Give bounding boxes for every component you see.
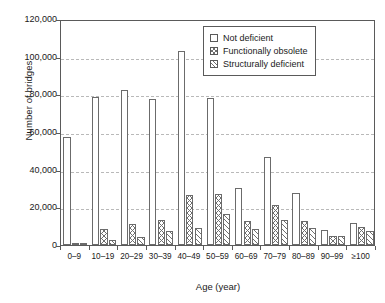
x-axis-tick-label: 50–59 <box>206 252 229 261</box>
y-axis-tick-label: 100,000 <box>0 52 57 62</box>
bar-sd <box>195 228 202 245</box>
y-axis-tick-mark <box>56 20 60 21</box>
x-axis-tick-label: ≥100 <box>352 252 370 261</box>
x-axis-tick-label: 60–69 <box>235 252 258 261</box>
x-axis-title: Age (year) <box>60 281 376 292</box>
bar-nd <box>207 98 214 245</box>
bar-fo <box>272 205 279 245</box>
y-axis-tick-label: 60,000 <box>0 127 57 137</box>
x-axis-tick-label: 80–89 <box>292 252 315 261</box>
x-axis-tick-mark <box>60 246 61 250</box>
x-axis-tick-label: 90–99 <box>321 252 344 261</box>
bar-nd <box>292 193 299 245</box>
y-axis-tick-label: 120,000 <box>0 14 57 24</box>
bar-sd <box>338 236 345 245</box>
x-axis-tick-mark <box>318 246 319 250</box>
legend-item: Functionally obsolete <box>210 44 308 57</box>
legend-swatch-functionally-obsolete <box>210 47 218 55</box>
y-axis-tick-label: 0 <box>0 240 57 250</box>
x-axis-tick-label: 70–79 <box>263 252 286 261</box>
y-axis-tick-mark <box>56 208 60 209</box>
bar-chart-figure: Number of bridges Age (year) Not deficie… <box>0 0 385 303</box>
bar-nd <box>321 230 328 245</box>
y-axis-tick-label: 40,000 <box>0 165 57 175</box>
bar-nd <box>149 99 156 245</box>
bar-nd <box>121 90 128 245</box>
bar-fo <box>100 229 107 245</box>
bar-nd <box>178 51 185 245</box>
bar-fo <box>186 195 193 245</box>
x-axis-tick-mark <box>260 246 261 250</box>
bar-sd <box>281 220 288 245</box>
y-axis-tick-label: 20,000 <box>0 202 57 212</box>
bar-sd <box>109 240 116 245</box>
bar-fo <box>329 236 336 245</box>
x-axis-tick-mark <box>89 246 90 250</box>
legend-label: Not deficient <box>223 33 273 43</box>
bar-fo <box>158 220 165 245</box>
legend-label: Structurally deficient <box>223 59 304 69</box>
y-axis-tick-mark <box>56 133 60 134</box>
x-axis-tick-label: 20–29 <box>120 252 143 261</box>
x-axis-tick-label: 0–9 <box>67 252 81 261</box>
x-axis-tick-mark <box>289 246 290 250</box>
bar-sd <box>166 231 173 245</box>
bar-fo <box>358 227 365 245</box>
x-axis-tick-mark <box>117 246 118 250</box>
x-axis-tick-mark <box>375 246 376 250</box>
x-axis-tick-mark <box>146 246 147 250</box>
x-axis-tick-mark <box>203 246 204 250</box>
y-axis-tick-mark <box>56 58 60 59</box>
y-axis-tick-label: 80,000 <box>0 89 57 99</box>
bar-sd <box>309 228 316 245</box>
bar-nd <box>235 188 242 245</box>
bar-sd <box>223 214 230 245</box>
x-axis-tick-mark <box>175 246 176 250</box>
bar-fo <box>215 194 222 245</box>
bar-sd <box>366 231 373 245</box>
bar-nd <box>63 137 70 245</box>
legend-item: Not deficient <box>210 31 308 44</box>
bar-sd <box>252 229 259 245</box>
bar-sd <box>137 237 144 245</box>
legend-swatch-not-deficient <box>210 34 218 42</box>
y-axis-tick-mark <box>56 95 60 96</box>
bar-nd <box>92 97 99 245</box>
legend-swatch-structurally-deficient <box>210 60 218 68</box>
bar-fo <box>129 224 136 245</box>
bar-nd <box>264 157 271 245</box>
chart-legend: Not deficient Functionally obsolete Stru… <box>203 26 316 76</box>
x-axis-tick-label: 10–19 <box>92 252 115 261</box>
bar-fo <box>72 243 79 245</box>
legend-item: Structurally deficient <box>210 57 308 70</box>
bar-fo <box>244 221 251 245</box>
bar-sd <box>80 243 87 245</box>
x-axis-tick-mark <box>232 246 233 250</box>
x-axis-tick-label: 40–49 <box>177 252 200 261</box>
bar-nd <box>350 223 357 245</box>
y-axis-title: Number of bridges <box>23 21 34 181</box>
x-axis-tick-mark <box>346 246 347 250</box>
bar-fo <box>301 221 308 245</box>
y-axis-tick-mark <box>56 171 60 172</box>
legend-label: Functionally obsolete <box>223 46 308 56</box>
x-axis-tick-label: 30–39 <box>149 252 172 261</box>
